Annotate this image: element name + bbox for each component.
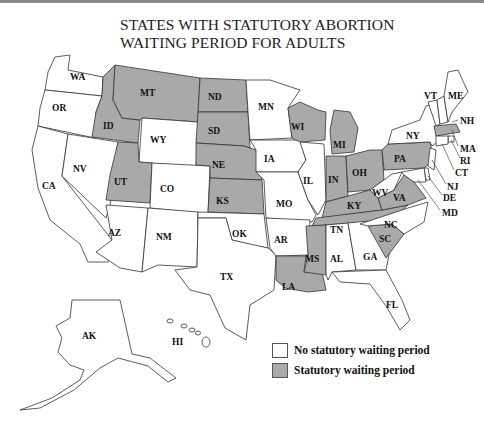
legend: No statutory waiting period Statutory wa… xyxy=(272,340,430,380)
label-VT: VT xyxy=(424,91,438,101)
label-KS: KS xyxy=(216,196,229,206)
state-CO[interactable] xyxy=(150,163,210,214)
label-FL: FL xyxy=(386,300,398,310)
label-WV: WV xyxy=(372,188,389,198)
label-OR: OR xyxy=(52,103,66,113)
state-WY[interactable] xyxy=(139,118,198,167)
label-CA: CA xyxy=(42,181,56,191)
label-MO: MO xyxy=(276,199,292,209)
label-TX: TX xyxy=(220,272,233,282)
label-IN: IN xyxy=(328,175,339,185)
label-IA: IA xyxy=(264,154,275,164)
label-ME: ME xyxy=(448,91,463,101)
legend-swatch-white xyxy=(272,343,288,358)
label-NV: NV xyxy=(73,164,87,174)
label-GA: GA xyxy=(363,252,377,262)
state-MA[interactable] xyxy=(434,124,460,136)
state-MT[interactable] xyxy=(113,65,200,122)
label-NM: NM xyxy=(156,232,172,242)
label-ND: ND xyxy=(208,92,222,102)
label-NJ: NJ xyxy=(447,182,459,192)
label-CO: CO xyxy=(160,184,174,194)
state-SD[interactable] xyxy=(196,112,250,148)
state-RI[interactable] xyxy=(448,136,454,142)
label-SC: SC xyxy=(379,234,391,244)
legend-label-no-waiting: No statutory waiting period xyxy=(294,344,430,356)
label-OH: OH xyxy=(352,168,367,178)
state-MS[interactable] xyxy=(304,225,326,275)
state-AK[interactable] xyxy=(20,300,176,410)
label-MN: MN xyxy=(258,102,274,112)
state-ND[interactable] xyxy=(198,78,248,112)
label-WY: WY xyxy=(150,135,167,145)
label-MI: MI xyxy=(333,140,346,150)
label-NC: NC xyxy=(384,220,398,230)
label-IL: IL xyxy=(303,176,313,186)
label-AL: AL xyxy=(330,254,343,264)
label-CT: CT xyxy=(455,168,469,178)
legend-item-no-waiting: No statutory waiting period xyxy=(272,340,430,360)
label-AR: AR xyxy=(274,235,288,245)
state-AR[interactable] xyxy=(266,218,310,256)
label-MD: MD xyxy=(442,208,458,218)
label-WA: WA xyxy=(70,72,85,82)
label-NH: NH xyxy=(460,116,475,126)
label-KY: KY xyxy=(347,201,361,211)
label-ID: ID xyxy=(103,121,114,131)
state-FL[interactable] xyxy=(332,270,410,330)
label-NE: NE xyxy=(212,160,225,170)
state-IA[interactable] xyxy=(250,140,306,172)
label-DE: DE xyxy=(443,193,456,203)
label-OK: OK xyxy=(232,229,247,239)
label-HI: HI xyxy=(172,337,183,347)
legend-label-waiting: Statutory waiting period xyxy=(294,364,415,376)
legend-swatch-gray xyxy=(272,363,288,378)
label-SD: SD xyxy=(208,126,220,136)
state-PA[interactable] xyxy=(382,142,434,170)
label-TN: TN xyxy=(330,225,343,235)
label-AZ: AZ xyxy=(108,228,121,238)
label-MA: MA xyxy=(460,144,476,154)
label-AK: AK xyxy=(82,331,97,341)
label-MS: MS xyxy=(305,254,319,264)
label-UT: UT xyxy=(114,177,128,187)
label-PA: PA xyxy=(394,154,406,164)
label-MT: MT xyxy=(140,88,156,98)
label-RI: RI xyxy=(460,156,471,166)
label-LA: LA xyxy=(282,282,295,292)
label-VA: VA xyxy=(393,193,406,203)
legend-item-waiting: Statutory waiting period xyxy=(272,360,430,380)
label-NY: NY xyxy=(406,131,420,141)
label-WI: WI xyxy=(291,122,305,132)
